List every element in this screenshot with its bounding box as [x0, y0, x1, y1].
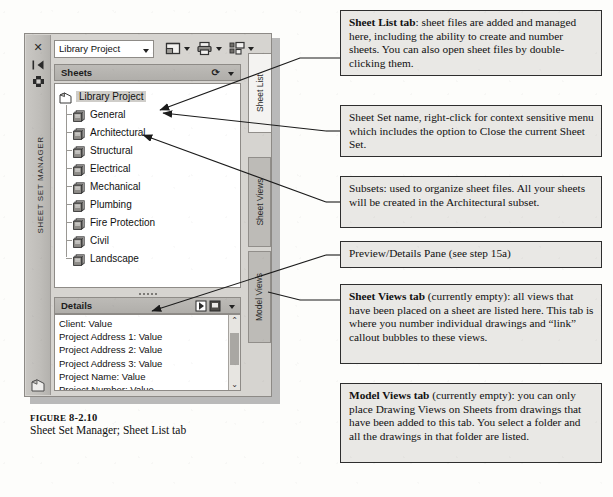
subset-icon — [73, 162, 86, 174]
palette-vertical-title: SHEET SET MANAGER — [36, 150, 45, 234]
details-row: Client: Value — [59, 317, 226, 330]
palette-tab-strip: Sheet List Sheet Views Model Views — [248, 35, 272, 395]
callout-model-views-tab: Model Views tab (currently empty): you c… — [340, 383, 602, 463]
auto-hide-icon[interactable] — [30, 57, 46, 72]
subset-icon — [73, 126, 86, 138]
callout-6-lead: Model Views tab — [349, 389, 429, 401]
details-row: Project Address 3: Value — [59, 357, 226, 370]
properties-icon[interactable] — [30, 74, 46, 89]
sheet-set-manager-palette[interactable]: ✕ SHEET SET MANAGER — [24, 33, 282, 405]
details-section-title: Details — [61, 300, 92, 311]
callout-sheet-set-name: Sheet Set name, right-click for context … — [340, 105, 602, 157]
sheets-chevron-down-icon[interactable] — [228, 72, 234, 76]
new-sheet-icon[interactable] — [165, 41, 181, 57]
callout-5-lead: Sheet Views tab — [349, 290, 425, 302]
details-pane[interactable]: Client: ValueProject Address 1: ValuePro… — [54, 314, 241, 391]
tree-subset-label: Fire Protection — [90, 217, 155, 228]
scroll-up-icon[interactable]: ⌃ — [229, 315, 240, 326]
publish-chevron-down-icon[interactable] — [216, 47, 222, 51]
tree-branch-line — [66, 168, 72, 169]
sheet-set-dropdown[interactable]: Library Project — [54, 40, 154, 58]
tab-model-views[interactable]: Model Views — [248, 251, 271, 343]
details-row: Project Address 2: Value — [59, 343, 226, 356]
tree-branch-line — [66, 132, 72, 133]
subset-icon — [73, 234, 86, 246]
callout-sheet-views-tab: Sheet Views tab (currently empty): all v… — [340, 284, 602, 364]
tree-subset-label: Mechanical — [90, 181, 141, 192]
pane-splitter[interactable] — [54, 290, 241, 297]
publish-icon[interactable] — [197, 41, 213, 57]
tree-subset-item[interactable]: Landscape — [55, 249, 240, 267]
palette-toolbar: Library Project — [52, 38, 243, 62]
tree-subset-label: Structural — [90, 145, 133, 156]
figure-label: FIGURE 8-2.10 — [30, 412, 260, 423]
details-row: Project Name: Value — [59, 370, 226, 383]
details-toggle-icon[interactable] — [195, 300, 207, 312]
details-row: Project Number: Value — [59, 383, 226, 391]
tree-subset-item[interactable]: Electrical — [55, 159, 240, 177]
figure-caption: FIGURE 8-2.10 Sheet Set Manager; Sheet L… — [30, 412, 260, 436]
details-scrollbar[interactable]: ⌃ ⌄ — [228, 315, 240, 390]
new-sheet-chevron-down-icon[interactable] — [184, 47, 190, 51]
auto-hide-glyph — [32, 60, 44, 70]
sheet-set-properties-icon[interactable] — [229, 41, 245, 57]
scroll-down-icon[interactable]: ⌄ — [229, 379, 240, 390]
sheet-set-dropdown-value: Library Project — [59, 43, 120, 54]
subset-icon — [73, 216, 86, 228]
tree-root-label: Library Project — [76, 91, 146, 102]
tree-subset-item[interactable]: Structural — [55, 141, 240, 159]
tree-subset-label: Architectural — [90, 127, 146, 138]
tree-subset-item[interactable]: Architectural — [55, 123, 240, 141]
tree-branch-line — [66, 222, 72, 223]
callout-4-text: Preview/Details Pane (see step 15a) — [349, 247, 511, 259]
tree-subset-item[interactable]: Fire Protection — [55, 213, 240, 231]
callout-preview-details-pane: Preview/Details Pane (see step 15a) — [340, 241, 602, 268]
tree-subset-label: Electrical — [90, 163, 131, 174]
tab-sheet-views[interactable]: Sheet Views — [248, 157, 271, 247]
subset-icon — [73, 198, 86, 210]
tree-branch-line — [66, 150, 72, 151]
tree-subset-label: Landscape — [90, 253, 139, 264]
sheets-section-title: Sheets — [61, 67, 92, 78]
tab-sheet-views-label: Sheet Views — [255, 178, 265, 225]
close-icon[interactable]: ✕ — [30, 40, 46, 55]
palette-title-rail: ✕ SHEET SET MANAGER — [26, 35, 51, 395]
palette-body: Library Project — [52, 38, 243, 391]
preview-toggle-icon[interactable] — [209, 300, 221, 312]
callout-2-text: Sheet Set name, right-click for context … — [349, 111, 594, 150]
tree-subset-item[interactable]: General — [55, 105, 240, 123]
tree-branch-line — [66, 204, 72, 205]
tab-sheet-list-label: Sheet List — [255, 74, 265, 112]
palette-frame: ✕ SHEET SET MANAGER — [24, 33, 272, 397]
tree-subset-item[interactable]: Civil — [55, 231, 240, 249]
tree-branch-line — [66, 240, 72, 241]
tree-subset-label: Plumbing — [90, 199, 132, 210]
sheet-list-tree[interactable]: Library Project GeneralArchitecturalStru… — [54, 83, 241, 288]
sheets-section-header: Sheets ⟳ — [54, 64, 241, 81]
tree-subset-item[interactable]: Plumbing — [55, 195, 240, 213]
tree-subset-list: GeneralArchitecturalStructuralElectrical… — [55, 105, 240, 267]
tree-root-item[interactable]: Library Project — [55, 87, 240, 105]
subset-icon — [73, 108, 86, 120]
tab-sheet-list[interactable]: Sheet List — [248, 53, 271, 133]
callout-1-lead: Sheet List tab — [349, 16, 416, 28]
callout-3-text: Subsets: used to organize sheet files. A… — [349, 182, 585, 208]
chevron-down-icon — [143, 49, 149, 53]
figure-caption-text: Sheet Set Manager; Sheet List tab — [30, 424, 260, 436]
details-chevron-down-icon[interactable] — [229, 305, 235, 309]
tree-branch-line — [66, 114, 72, 115]
scrollbar-thumb[interactable] — [230, 333, 239, 365]
figure-label-number: 8-2.10 — [69, 412, 97, 423]
tree-subset-item[interactable]: Mechanical — [55, 177, 240, 195]
details-row: Project Address 1: Value — [59, 330, 226, 343]
subset-icon — [73, 180, 86, 192]
details-section-header: Details — [54, 297, 241, 314]
tree-children: GeneralArchitecturalStructuralElectrical… — [55, 105, 240, 267]
tree-subset-label: Civil — [90, 235, 109, 246]
sheet-set-logo-icon — [31, 378, 45, 391]
refresh-icon[interactable]: ⟳ — [212, 68, 220, 78]
gear-glyph — [33, 76, 44, 87]
subset-icon — [73, 252, 86, 264]
callout-subsets: Subsets: used to organize sheet files. A… — [340, 176, 602, 228]
callout-sheet-list-tab: Sheet List tab: sheet files are added an… — [340, 10, 602, 76]
